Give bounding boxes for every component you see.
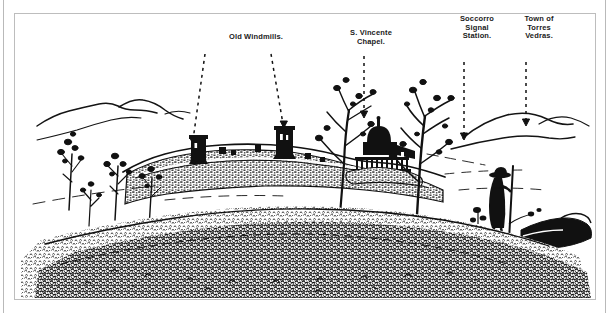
illustration-page: Old Windmills. S. Vincente Chapel. Socco… — [0, 0, 609, 313]
label-town-of-torres-vedras: Town of Torres Vedras. — [503, 15, 575, 41]
engraving-artwork — [15, 14, 595, 299]
label-old-windmills: Old Windmills. — [208, 33, 304, 42]
engraving-frame — [14, 13, 596, 300]
label-s-vincente-chapel: S. Vincente Chapel. — [335, 29, 407, 46]
windmill-right — [273, 126, 296, 159]
outer-rule-right — [605, 0, 606, 313]
outer-rule-left — [3, 0, 4, 313]
